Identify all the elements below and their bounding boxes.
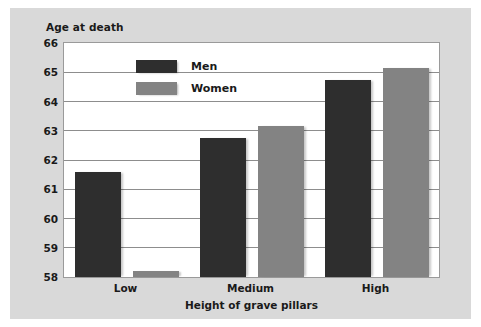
y-tick-label: 62	[43, 154, 58, 166]
legend-swatch-women-icon	[136, 82, 177, 95]
bars-layer	[64, 43, 439, 277]
bar-low-men	[75, 172, 121, 277]
y-tick-label: 65	[43, 66, 58, 78]
legend-label-men: Men	[191, 60, 217, 73]
x-tick-label-medium: Medium	[227, 282, 274, 294]
y-tick-label: 61	[43, 183, 58, 195]
y-tick-label: 60	[43, 213, 58, 225]
y-axis-title: Age at death	[46, 21, 124, 33]
legend-swatch-men-icon	[136, 60, 177, 73]
x-tick-label-low: Low	[114, 282, 138, 294]
y-tick-label: 63	[43, 125, 58, 137]
bar-medium-women	[258, 126, 304, 277]
y-tick-label: 59	[43, 242, 58, 254]
chart-legend: Men Women	[136, 55, 237, 99]
bar-high-men	[325, 80, 371, 277]
chart-figure: Age at death 585960616263646566 Men Wome…	[10, 8, 471, 319]
bar-medium-men	[200, 138, 246, 277]
plot-area: 585960616263646566 Men Women	[63, 42, 440, 278]
x-axis-title: Height of grave pillars	[63, 299, 440, 311]
legend-item-men: Men	[136, 55, 237, 77]
bar-high-women	[383, 68, 429, 277]
y-tick-label: 66	[43, 37, 58, 49]
legend-label-women: Women	[191, 82, 237, 95]
y-tick-label: 58	[43, 271, 58, 283]
bar-low-women	[133, 271, 179, 277]
x-tick-label-high: High	[362, 282, 389, 294]
legend-item-women: Women	[136, 77, 237, 99]
y-tick: 58	[64, 277, 65, 278]
y-tick-label: 64	[43, 96, 58, 108]
